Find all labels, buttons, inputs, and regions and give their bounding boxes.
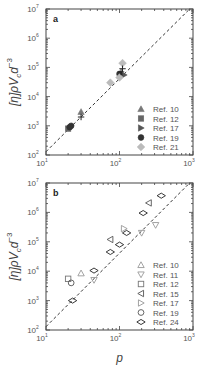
data-point [106,249,114,254]
data-point [157,193,165,198]
legend-marker [138,300,144,306]
panel-label: a [53,14,59,24]
legend-entry: Ref. 10 [153,261,179,270]
legend-marker [138,310,144,316]
legend: Ref. 10Ref. 12Ref. 17Ref. 19Ref. 21 [137,105,179,152]
y-tick-label: 107 [27,177,39,188]
legend-entry: Ref. 12 [153,115,179,124]
y-tick-label: 107 [27,3,39,14]
legend-entry: Ref. 17 [153,299,179,308]
x-tick-label: 103 [183,157,195,168]
legend-entry: Ref. 21 [153,143,179,152]
legend-marker [138,106,144,112]
y-tick-label: 106 [27,32,39,43]
y-tick-label: 106 [27,206,39,217]
y-tick-label: 104 [27,91,39,102]
legend-marker [137,319,145,324]
legend-marker [138,125,144,131]
y-tick-label: 103 [27,295,39,306]
legend-entry: Ref. 19 [153,134,179,143]
data-point [152,223,158,229]
data-point [90,268,98,273]
x-tick-label: 101 [36,332,48,343]
legend-entry: Ref. 24 [153,318,179,327]
legend-entry: Ref. 10 [153,105,179,114]
legend-marker [138,272,144,278]
legend-entry: Ref. 12 [153,280,179,289]
legend-marker [138,290,144,296]
data-point [122,230,130,235]
data-point [107,236,113,242]
legend-entry: Ref. 15 [153,290,179,299]
legend-marker [138,135,144,141]
y-tick-label: 104 [27,265,39,276]
y-tick-label: 105 [27,61,39,72]
x-axis-label: p [115,351,123,365]
figure: 101102103102103104105106107a[η]ρVcd−3Ref… [0,0,204,371]
legend-entry: Ref. 17 [153,124,179,133]
data-point [68,123,74,129]
data-points [65,59,127,131]
panel-a: 101102103102103104105106107a[η]ρVcd−3Ref… [5,3,195,168]
legend: Ref. 10Ref. 11Ref. 12Ref. 15Ref. 17Ref. … [137,261,180,327]
data-point [78,109,84,115]
legend-marker [137,143,145,151]
legend-marker [138,281,143,286]
panel-b: 101102103102103104105106107b[η]ρVcd−3pRe… [5,177,195,365]
data-point [146,200,152,206]
y-tick-label: 103 [27,120,39,131]
legend-marker [138,116,143,121]
y-axis-label: [η]ρVcd−3 [5,57,23,107]
legend-marker [138,262,144,268]
data-points [65,193,165,303]
data-point [139,210,147,215]
panel-label: b [53,188,59,198]
data-point [115,242,123,247]
x-tick-label: 102 [110,332,122,343]
y-tick-label: 105 [27,236,39,247]
legend-entry: Ref. 11 [153,271,179,280]
legend-entry: Ref. 19 [153,309,179,318]
y-axis-label: [η]ρVcd−3 [5,232,23,282]
x-tick-label: 101 [36,157,48,168]
x-tick-label: 103 [183,332,195,343]
data-point [78,270,84,276]
x-tick-label: 102 [110,157,122,168]
